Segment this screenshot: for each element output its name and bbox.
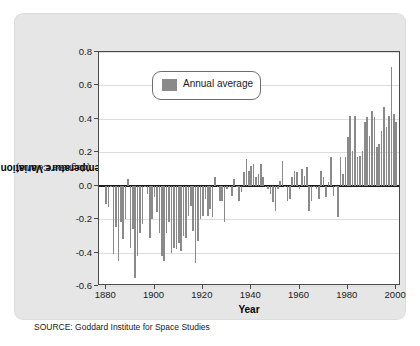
bar [110,186,112,188]
bar [349,116,351,186]
x-axis-tick-mark [250,285,251,289]
bar [376,147,378,185]
bar [118,186,120,261]
bar [364,122,366,186]
bar [378,144,380,186]
chart-card: Temperature Variation (degrees Celsius) … [14,13,406,320]
bar [224,186,226,223]
y-axis-tick-label: 0.0 [79,179,92,190]
bar [362,151,364,186]
x-axis-tick-label: 1920 [191,289,212,300]
bar [108,186,110,208]
bar [200,186,202,219]
legend-swatch-annual-average [162,79,177,91]
bar [393,114,395,186]
bar [287,186,289,201]
bar [270,186,272,194]
bar [388,116,390,186]
bar [127,179,129,186]
bar [149,186,151,238]
bar [236,186,238,187]
y-axis-tick-label: 0.2 [79,146,92,157]
bar [202,186,204,216]
bar [381,131,383,186]
bar [313,186,315,187]
bar [369,136,371,186]
legend-label-annual-average: Annual average [183,78,253,89]
source-note: SOURCE: Goddard Institute for Space Stud… [34,322,210,332]
bar [366,117,368,186]
bar [183,186,185,236]
bar [260,164,262,186]
bar [243,172,245,185]
bar [173,186,175,248]
bar [238,186,240,201]
bar [374,117,376,186]
bar [316,186,318,189]
bar [306,167,308,185]
bar [253,164,255,186]
bar [335,186,337,188]
bar [180,186,182,251]
x-axis-tick-mark [202,285,203,289]
bar [185,186,187,238]
bar [289,186,291,199]
bar [354,116,356,186]
bar [105,186,107,204]
bar [192,186,194,231]
bar [159,186,161,233]
y-axis-tick-label: -0.6 [76,280,92,291]
bar [275,186,277,211]
bar [291,177,293,185]
y-axis-ticks: 0.80.60.40.20.0-0.2-0.4-0.6 [14,13,98,320]
x-axis-tick-label: 1960 [288,289,309,300]
bar [304,176,306,186]
bar [386,127,388,186]
bar [171,186,173,253]
bar [130,186,132,248]
bar [212,186,214,218]
bar [134,186,136,278]
bar [301,169,303,186]
bar [330,157,332,185]
bar [320,171,322,186]
bar [163,186,165,261]
y-axis-tick-label: -0.2 [76,213,92,224]
y-axis-tick-label: -0.4 [76,246,92,257]
bar [359,156,361,186]
bar [221,186,223,201]
x-axis-tick-label: 1900 [143,289,164,300]
bar [125,186,127,219]
y-axis-tick-mark [94,285,98,286]
bar [154,186,156,198]
bar [197,186,199,241]
bar [284,186,286,187]
bar [190,186,192,206]
x-axis-tick-mark [105,285,106,289]
bar [258,174,260,186]
bar [325,186,327,198]
bar [279,181,281,186]
x-axis-title: Year [98,304,400,315]
x-axis-tick-label: 2000 [385,289,406,300]
bar [219,186,221,201]
bar [248,171,250,186]
bar [241,186,243,193]
bar [226,186,228,189]
bar [132,186,134,229]
legend: Annual average [152,71,261,100]
y-axis-tick-label: 0.8 [79,46,92,57]
bar [371,111,373,186]
bar [214,177,216,185]
bar [328,182,330,185]
bar [178,186,180,243]
bar [115,186,117,228]
y-axis-tick-label: 0.6 [79,79,92,90]
bar [272,186,274,203]
bar [139,186,141,233]
bar [144,186,146,188]
bar [166,186,168,233]
x-axis-tick-label: 1880 [95,289,116,300]
bar [342,174,344,186]
bar [383,107,385,186]
